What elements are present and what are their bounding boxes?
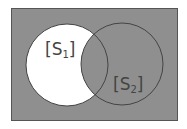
- set-s2-label: [S2]: [113, 74, 143, 95]
- venn-diagram: [S1] [S2]: [0, 0, 187, 129]
- set-s1-label: [S1]: [45, 39, 75, 60]
